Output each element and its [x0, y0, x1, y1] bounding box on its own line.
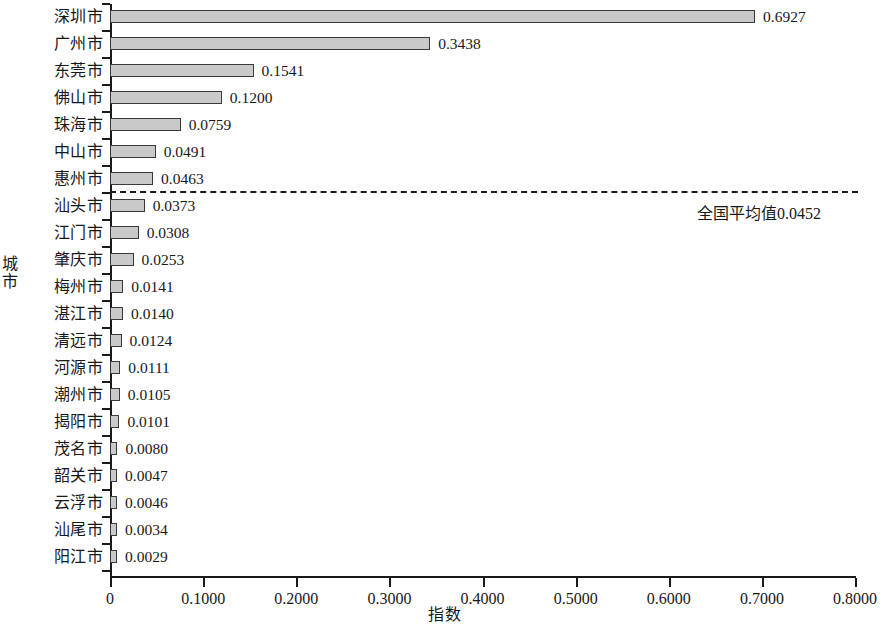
national-average-label: 全国平均值0.0452: [697, 203, 821, 225]
category-label-7: 惠州市: [0, 166, 103, 193]
category-label-text: 珠海市: [54, 113, 104, 136]
bar-row: 0.6927: [110, 4, 855, 31]
bar: [110, 64, 254, 77]
category-label-12: 湛江市: [0, 301, 103, 328]
category-label-text: 广州市: [54, 32, 104, 55]
y-axis-tick: [102, 381, 110, 383]
bar-value-label: 0.0034: [125, 518, 168, 541]
y-axis-tick: [102, 462, 110, 464]
category-label-text: 汕头市: [54, 194, 104, 217]
bar-row: 0.0029: [110, 544, 855, 571]
bar-value-label: 0.0047: [125, 464, 168, 487]
bar-value-label: 0.0124: [130, 329, 173, 352]
bar-value-label: 0.0080: [125, 437, 168, 460]
bar-value-label: 0.0759: [189, 113, 232, 136]
y-axis-tick: [102, 165, 110, 167]
bar-row: 0.0491: [110, 139, 855, 166]
bar-row: 0.0463: [110, 166, 855, 193]
bar: [110, 199, 145, 212]
category-label-5: 珠海市: [0, 112, 103, 139]
category-label-2: 广州市: [0, 31, 103, 58]
bar-row: 0.0046: [110, 490, 855, 517]
plot-area: 0.69270.34380.15410.12000.07590.04910.04…: [110, 4, 855, 578]
x-axis-tick: [483, 578, 485, 587]
category-label-text: 江门市: [54, 221, 104, 244]
bar: [110, 280, 123, 293]
category-label-text: 云浮市: [54, 491, 104, 514]
y-axis-tick: [102, 111, 110, 113]
category-label-text: 梅州市: [54, 275, 104, 298]
category-label-text: 肇庆市: [54, 248, 104, 271]
bar: [110, 37, 430, 50]
category-label-17: 茂名市: [0, 436, 103, 463]
bar: [110, 145, 156, 158]
category-label-text: 韶关市: [54, 464, 104, 487]
bar-row: 0.1541: [110, 58, 855, 85]
category-label-18: 韶关市: [0, 463, 103, 490]
category-label-1: 深圳市: [0, 4, 103, 31]
y-axis-tick: [102, 246, 110, 248]
bar: [110, 334, 122, 347]
bar-row: 0.0253: [110, 247, 855, 274]
category-label-text: 清远市: [54, 329, 104, 352]
bar-row: 0.0140: [110, 301, 855, 328]
x-axis-tick: [110, 578, 112, 587]
bar-value-label: 0.0140: [131, 302, 174, 325]
y-axis-tick: [102, 489, 110, 491]
bar: [110, 469, 117, 482]
bar-row: 0.0141: [110, 274, 855, 301]
bar-chart: 0.69270.34380.15410.12000.07590.04910.04…: [0, 0, 889, 627]
y-axis-tick: [102, 84, 110, 86]
bar-value-label: 0.0111: [128, 356, 169, 379]
bar: [110, 496, 117, 509]
bar: [110, 307, 123, 320]
bar-value-label: 0.0046: [125, 491, 168, 514]
category-label-19: 云浮市: [0, 490, 103, 517]
category-label-21: 阳江市: [0, 544, 103, 571]
y-axis-tick: [102, 570, 110, 572]
category-label-20: 汕尾市: [0, 517, 103, 544]
category-label-text: 惠州市: [54, 167, 104, 190]
bar-value-label: 0.3438: [438, 32, 481, 55]
bar-value-label: 0.0491: [164, 140, 207, 163]
y-axis-tick: [102, 30, 110, 32]
bar-value-label: 0.0141: [131, 275, 174, 298]
category-label-text: 汕尾市: [54, 518, 104, 541]
bar-row: 0.0080: [110, 436, 855, 463]
bar-value-label: 0.6927: [763, 5, 806, 28]
y-axis-tick: [102, 327, 110, 329]
category-label-3: 东莞市: [0, 58, 103, 85]
y-axis-tick: [102, 219, 110, 221]
national-average-line: [110, 191, 858, 193]
category-label-9: 江门市: [0, 220, 103, 247]
bar: [110, 226, 139, 239]
category-label-text: 佛山市: [54, 86, 104, 109]
category-label-16: 揭阳市: [0, 409, 103, 436]
bar: [110, 361, 120, 374]
bar: [110, 415, 119, 428]
x-axis-tick: [296, 578, 298, 587]
y-axis-tick: [102, 408, 110, 410]
y-axis-tick: [102, 273, 110, 275]
category-label-6: 中山市: [0, 139, 103, 166]
bar-value-label: 0.0253: [142, 248, 185, 271]
x-axis-tick: [669, 578, 671, 587]
x-axis-tick: [855, 578, 857, 587]
x-axis-tick: [576, 578, 578, 587]
category-label-text: 阳江市: [54, 545, 104, 568]
y-axis-tick: [102, 435, 110, 437]
x-axis-tick: [762, 578, 764, 587]
bar: [110, 172, 153, 185]
bar-value-label: 0.0463: [161, 167, 204, 190]
bar-value-label: 0.1200: [230, 86, 273, 109]
category-label-text: 河源市: [54, 356, 104, 379]
bar: [110, 550, 117, 563]
category-label-text: 深圳市: [54, 5, 104, 28]
bar-value-label: 0.0029: [125, 545, 168, 568]
bar-row: 0.0034: [110, 517, 855, 544]
bar: [110, 523, 117, 536]
bar-value-label: 0.0101: [127, 410, 170, 433]
bar-value-label: 0.0308: [147, 221, 190, 244]
category-label-text: 揭阳市: [54, 410, 104, 433]
bar-value-label: 0.1541: [262, 59, 305, 82]
